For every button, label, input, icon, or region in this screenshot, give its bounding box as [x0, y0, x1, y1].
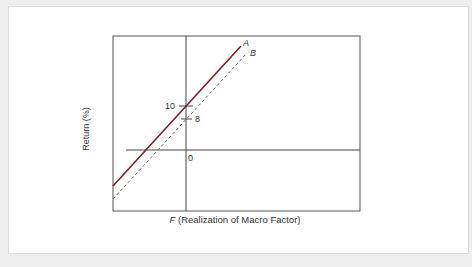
tick-label-10: 10 — [165, 101, 175, 111]
tick-label-8: 8 — [195, 114, 200, 124]
origin-label: 0 — [188, 153, 193, 163]
factor-model-chart: 10 8 0 A B — [0, 0, 472, 267]
x-axis-label-text: (Realization of Macro Factor) — [175, 214, 300, 225]
line-a — [113, 46, 241, 186]
y-axis-label: Return (%) — [81, 99, 91, 159]
plot-frame — [113, 36, 360, 211]
x-axis-label: F (Realization of Macro Factor) — [150, 214, 320, 225]
series-label-a: A — [242, 38, 249, 48]
line-b — [113, 53, 247, 199]
series-label-b: B — [250, 48, 256, 58]
